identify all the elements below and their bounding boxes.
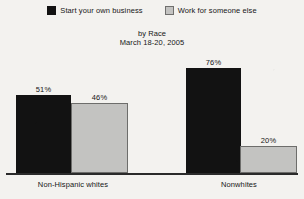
- bar-value-non-hispanic-whites-work-for-someone-else: 46%: [71, 93, 128, 102]
- bar-non-hispanic-whites-start-your-own-business: [16, 95, 71, 173]
- bar-value-nonwhites-start-your-own-business: 76%: [186, 58, 241, 67]
- bar-nonwhites-start-your-own-business: [186, 68, 241, 173]
- bar-value-non-hispanic-whites-start-your-own-business: 51%: [16, 85, 71, 94]
- bar-value-nonwhites-work-for-someone-else: 20%: [240, 136, 297, 145]
- bar-non-hispanic-whites-work-for-someone-else: [71, 103, 128, 173]
- plot-area: 51% 46% 76% 20% Non-Hispanic whites Nonw…: [0, 0, 304, 199]
- x-axis-line: [6, 173, 298, 175]
- x-axis-label-non-hispanic-whites: Non-Hispanic whites: [6, 180, 140, 189]
- bar-nonwhites-work-for-someone-else: [240, 146, 297, 173]
- x-axis-label-nonwhites: Nonwhites: [178, 180, 300, 189]
- bar-chart: Start your own business Work for someone…: [0, 0, 304, 199]
